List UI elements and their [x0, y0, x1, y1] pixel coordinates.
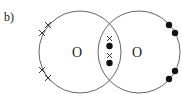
dot-icon [166, 22, 178, 82]
oxygen-molecule-dot-cross-diagram: O O [0, 0, 181, 94]
left-atom-symbol: O [72, 45, 82, 60]
shared-electron-pairs [106, 36, 112, 66]
right-atom-symbol: O [132, 45, 142, 60]
